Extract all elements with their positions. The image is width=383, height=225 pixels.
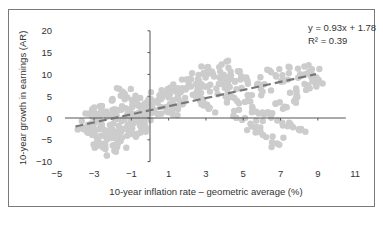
data-point	[197, 82, 203, 88]
data-point	[260, 132, 266, 138]
data-point	[227, 84, 233, 90]
data-point	[298, 126, 304, 132]
y-tick-label: −10	[36, 156, 52, 167]
data-point	[206, 105, 212, 111]
data-point	[82, 110, 88, 116]
x-tick-label: −3	[89, 168, 100, 179]
data-point	[107, 127, 113, 133]
data-point	[98, 107, 104, 113]
data-point	[268, 69, 274, 75]
data-point	[114, 85, 120, 91]
data-point	[224, 74, 230, 80]
data-point	[211, 73, 217, 79]
data-point	[128, 86, 134, 92]
data-point	[295, 65, 301, 71]
data-point	[223, 58, 229, 64]
data-point	[120, 89, 126, 95]
data-point	[224, 99, 230, 105]
x-tick-label: −5	[51, 168, 62, 179]
data-point	[311, 77, 317, 83]
data-point	[212, 109, 218, 115]
data-point	[145, 96, 151, 102]
data-point	[123, 145, 129, 151]
data-point	[260, 118, 266, 124]
x-tick-label: 1	[166, 168, 171, 179]
data-point	[175, 89, 181, 95]
data-point	[127, 122, 133, 128]
y-tick-label: 5	[47, 91, 52, 102]
data-point	[182, 86, 188, 92]
data-point	[93, 142, 99, 148]
data-point	[132, 101, 138, 107]
data-point	[115, 140, 121, 146]
data-point	[313, 83, 319, 89]
data-point	[276, 142, 282, 148]
data-point	[196, 92, 202, 98]
data-point	[143, 125, 149, 131]
data-point	[188, 76, 194, 82]
data-point	[301, 81, 307, 87]
data-point	[236, 69, 242, 75]
data-point	[247, 98, 253, 104]
data-point	[280, 106, 286, 112]
data-point	[79, 118, 85, 124]
x-tick-label: 3	[203, 168, 208, 179]
data-point	[257, 74, 263, 80]
data-point	[232, 78, 238, 84]
x-axis-title: 10-year inflation rate – geometric avera…	[109, 186, 302, 197]
data-point	[252, 129, 258, 135]
data-point	[99, 121, 105, 127]
scatter-chart: −5−3−11357911 20151050−5−10 y = 0.93x + …	[0, 0, 383, 225]
data-point	[161, 92, 167, 98]
data-point	[175, 106, 181, 112]
data-point	[102, 142, 108, 148]
scatter-points	[75, 58, 326, 159]
x-tick-label: 11	[350, 168, 360, 179]
data-point	[286, 70, 292, 76]
data-point	[207, 82, 213, 88]
x-tick-label: −1	[126, 168, 137, 179]
data-point	[279, 72, 285, 78]
data-point	[236, 100, 242, 106]
data-point	[198, 63, 204, 69]
data-point	[305, 62, 311, 68]
data-point	[148, 89, 154, 95]
data-point	[268, 87, 274, 93]
data-point	[245, 81, 251, 87]
y-tick-label: 10	[41, 69, 52, 80]
x-tick-label: 9	[315, 168, 320, 179]
regression-equation: y = 0.93x + 1.78	[308, 22, 376, 33]
data-point	[141, 113, 147, 119]
data-point	[290, 124, 296, 130]
data-point	[293, 88, 299, 94]
y-tick-label: 20	[41, 25, 52, 36]
data-point	[137, 122, 143, 128]
data-point	[205, 64, 211, 70]
y-tick-label: 0	[47, 113, 52, 124]
data-point	[104, 152, 110, 158]
data-point	[137, 129, 143, 135]
data-point	[137, 95, 143, 101]
data-point	[249, 92, 255, 98]
data-point	[89, 132, 95, 138]
data-point	[272, 101, 278, 107]
data-point	[287, 90, 293, 96]
data-point	[204, 71, 210, 77]
data-point	[268, 144, 274, 150]
data-point	[269, 133, 275, 139]
data-point	[316, 66, 322, 72]
y-axis-title: 10-year growth in earnings (AR)	[17, 31, 28, 166]
data-point	[249, 104, 255, 110]
data-point	[213, 85, 219, 91]
y-tick-label: −5	[41, 134, 52, 145]
data-point	[285, 63, 291, 69]
r-squared: R² = 0.39	[308, 35, 347, 46]
data-point	[259, 109, 265, 115]
data-point	[258, 92, 264, 98]
data-point	[189, 70, 195, 76]
data-point	[276, 66, 282, 72]
data-point	[182, 95, 188, 101]
data-point	[279, 120, 285, 126]
data-point	[109, 96, 115, 102]
data-point	[319, 80, 325, 86]
